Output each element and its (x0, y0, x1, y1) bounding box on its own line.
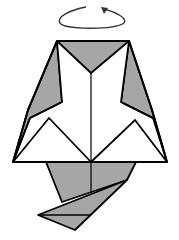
bottom-tail (38, 162, 136, 230)
turn-over-arrow-icon (59, 7, 124, 28)
origami-diagram (0, 0, 179, 240)
